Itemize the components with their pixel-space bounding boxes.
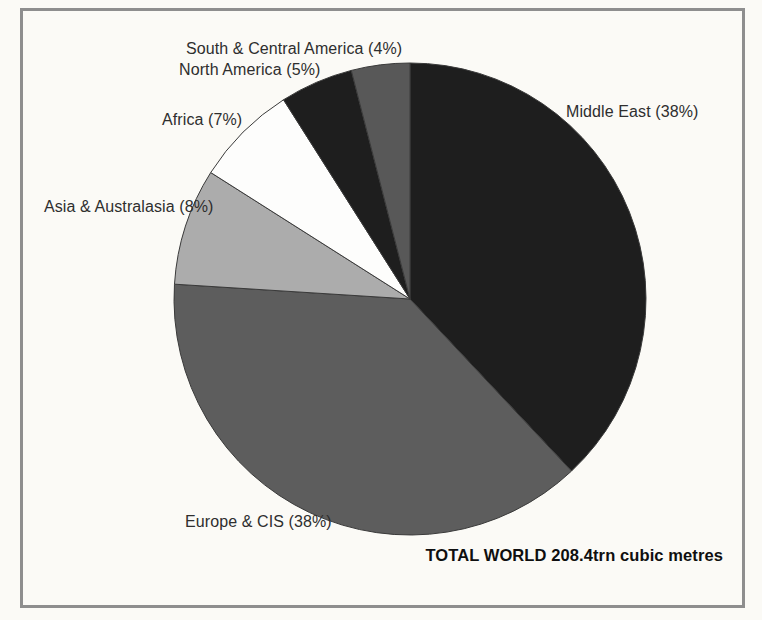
slice-label-south-central-america: South & Central America (4%) [186,40,402,58]
slice-label-africa: Africa (7%) [162,111,242,129]
scanned-pie-chart-page: { "figure": { "background": "#fbfaf6", "… [0,0,762,620]
slice-label-middle-east: Middle East (38%) [566,103,698,121]
slice-label-north-america: North America (5%) [179,61,320,79]
slice-label-asia-australasia: Asia & Australasia (8%) [44,198,213,216]
pie-chart [0,0,762,620]
slice-label-europe-cis: Europe & CIS (38%) [185,513,332,531]
total-world-caption: TOTAL WORLD 208.4trn cubic metres [425,546,723,564]
